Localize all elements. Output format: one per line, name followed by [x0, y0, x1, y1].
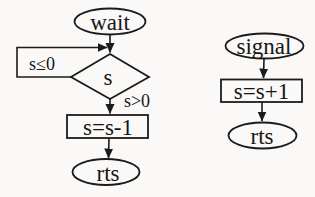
- flowchart-diagram: wait s≤0 s s>0 s=s-1 rts signal s=s+1 rt…: [0, 0, 315, 197]
- decision-label: s: [104, 65, 113, 90]
- wait-flowchart: wait s≤0 s s>0 s=s-1 rts: [17, 9, 150, 186]
- signal-end-label: rts: [251, 124, 274, 149]
- flowchart-canvas: wait s≤0 s s>0 s=s-1 rts signal s=s+1 rt…: [0, 0, 315, 197]
- loop-edge-label: s≤0: [29, 54, 55, 74]
- wait-end-label: rts: [97, 161, 120, 186]
- wait-start-label: wait: [90, 10, 130, 35]
- signal-flowchart: signal s=s+1 rts: [221, 34, 304, 149]
- decrement-process-label: s=s-1: [83, 115, 133, 140]
- edge-process-to-end: [109, 138, 110, 158]
- signal-start-label: signal: [237, 34, 292, 59]
- edge-signal-to-process: [264, 59, 265, 79]
- increment-process-label: s=s+1: [234, 79, 289, 104]
- exit-edge-label: s>0: [124, 91, 150, 111]
